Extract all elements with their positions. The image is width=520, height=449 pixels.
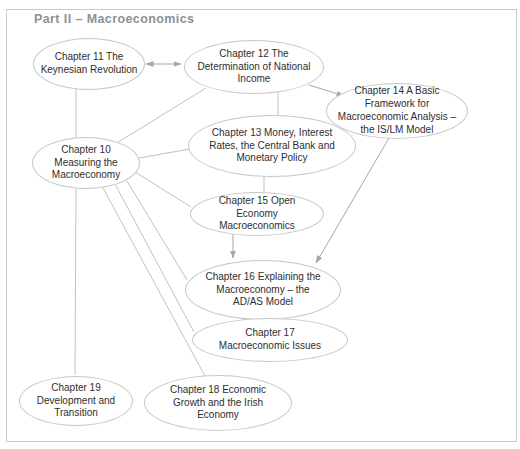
node-chapter-10-label: Chapter 10 Measuring the Macroeconomy [37, 144, 135, 182]
edge-ch10-ch13 [139, 149, 190, 158]
node-chapter-18: Chapter 18 Economic Growth and the Irish… [144, 375, 292, 431]
edge-ch10-ch19 [75, 189, 76, 375]
node-chapter-14-label: Chapter 14 A Basic Framework for Macroec… [331, 85, 463, 136]
node-chapter-14: Chapter 14 A Basic Framework for Macroec… [326, 83, 468, 139]
node-chapter-18-label: Chapter 18 Economic Growth and the Irish… [155, 384, 281, 422]
node-chapter-15-label: Chapter 15 Open Economy Macroeconomics [201, 195, 313, 233]
node-chapter-17-label: Chapter 17 Macroeconomic Issues [210, 327, 330, 353]
edge-ch10-ch16 [127, 181, 187, 280]
edge-ch10-ch17 [116, 186, 194, 332]
node-chapter-15: Chapter 15 Open Economy Macroeconomics [190, 192, 324, 236]
node-chapter-13: Chapter 13 Money, Interest Rates, the Ce… [188, 115, 356, 177]
node-chapter-11: Chapter 11 The Keynesian Revolution [33, 38, 145, 90]
node-chapter-12: Chapter 12 The Determination of National… [184, 40, 324, 94]
node-chapter-11-label: Chapter 11 The Keynesian Revolution [38, 51, 140, 77]
node-chapter-19-label: Chapter 19 Development and Transition [22, 382, 130, 420]
node-chapter-16: Chapter 16 Explaining the Macroeconomy –… [185, 260, 341, 320]
node-chapter-17: Chapter 17 Macroeconomic Issues [192, 318, 348, 362]
node-chapter-10: Chapter 10 Measuring the Macroeconomy [32, 137, 140, 189]
node-chapter-16-label: Chapter 16 Explaining the Macroeconomy –… [202, 271, 324, 309]
node-chapter-13-label: Chapter 13 Money, Interest Rates, the Ce… [209, 127, 335, 165]
node-chapter-12-label: Chapter 12 The Determination of National… [188, 48, 320, 86]
edge-ch10-ch15 [135, 172, 191, 207]
figure-part2-macroeconomics: Part II – Macroeconomics Chapter 11 The … [0, 0, 520, 449]
node-chapter-19: Chapter 19 Development and Transition [19, 376, 133, 426]
